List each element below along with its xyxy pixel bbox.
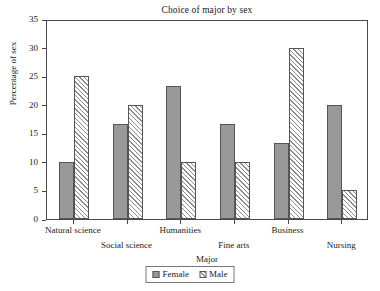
y-tick-label: 25: [0, 71, 38, 82]
x-tick-mark: [341, 220, 342, 224]
x-tick-mark: [180, 220, 181, 224]
plot-area: [46, 20, 368, 220]
y-tick-label: 35: [0, 14, 38, 25]
chart-title: Choice of major by sex: [46, 4, 368, 16]
bar-male-4: [289, 48, 304, 219]
bar-male-5: [342, 190, 357, 219]
x-tick-label: Humanities: [159, 225, 201, 236]
legend-entry-male: Male: [199, 269, 228, 279]
bar-male-3: [235, 162, 250, 219]
y-tick-label: 30: [0, 43, 38, 54]
y-tick-mark: [42, 48, 46, 49]
chart-figure: Choice of major by sex Percentage of sex…: [0, 0, 380, 291]
x-tick-mark: [234, 220, 235, 224]
legend-swatch-male: [199, 271, 206, 278]
x-tick-label: Natural science: [45, 225, 101, 236]
x-tick-mark: [73, 220, 74, 224]
y-tick-label: 5: [0, 185, 38, 196]
y-tick-mark: [42, 134, 46, 135]
y-tick-mark: [42, 191, 46, 192]
y-tick-label: 10: [0, 157, 38, 168]
bar-female-5: [327, 105, 342, 219]
y-tick-label: 15: [0, 128, 38, 139]
legend-label: Female: [163, 269, 190, 279]
y-tick-mark: [42, 20, 46, 21]
bar-female-1: [113, 124, 128, 219]
bar-female-3: [220, 124, 235, 219]
bar-female-0: [59, 162, 74, 219]
y-tick-mark: [42, 105, 46, 106]
plot-inner: [47, 21, 367, 219]
x-tick-label: Business: [271, 225, 303, 236]
x-axis-label: Major: [46, 254, 368, 265]
y-tick-mark: [42, 162, 46, 163]
y-tick-mark: [42, 220, 46, 221]
legend-swatch-female: [153, 271, 160, 278]
bar-female-4: [274, 143, 289, 219]
x-tick-label: Social science: [101, 240, 152, 251]
legend-entry-female: Female: [153, 269, 190, 279]
bar-male-0: [74, 76, 89, 219]
y-tick-label: 20: [0, 100, 38, 111]
x-tick-mark: [288, 220, 289, 224]
legend-label: Male: [209, 269, 228, 279]
y-tick-label: 0: [0, 214, 38, 225]
bar-male-2: [181, 162, 196, 219]
x-tick-label: Fine arts: [218, 240, 249, 251]
x-tick-label: Nursing: [327, 240, 356, 251]
bar-male-1: [128, 105, 143, 219]
y-tick-mark: [42, 77, 46, 78]
x-tick-mark: [127, 220, 128, 224]
chart-legend: FemaleMale: [146, 266, 235, 283]
bar-female-2: [166, 86, 181, 219]
